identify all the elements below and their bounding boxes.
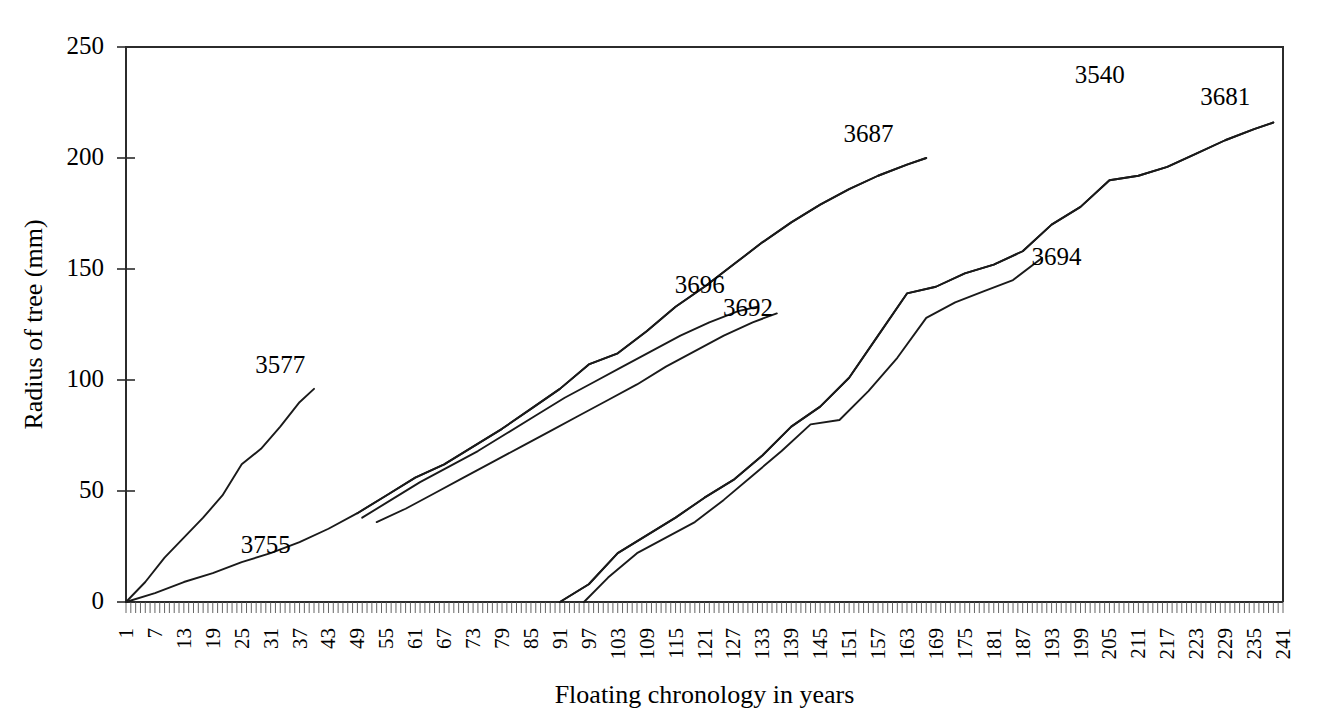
- x-tick-label-181: 181: [982, 628, 1006, 660]
- x-tick-label-187: 187: [1011, 628, 1035, 660]
- x-tick-label-55: 55: [374, 628, 398, 649]
- x-tick-label-19: 19: [201, 628, 225, 649]
- series-label-3696: 3696: [675, 271, 725, 298]
- x-tick-label-group-223: 223: [1184, 628, 1208, 660]
- series-label-3577: 3577: [255, 351, 305, 378]
- x-tick-label-73: 73: [461, 628, 485, 649]
- x-tick-label-85: 85: [519, 628, 543, 649]
- x-tick-label-group-61: 61: [403, 628, 427, 649]
- x-tick-label-91: 91: [548, 628, 572, 649]
- chart-page: 0501001502002501713192531374349556167737…: [0, 0, 1325, 723]
- x-axis-title: Floating chronology in years: [555, 680, 855, 709]
- x-tick-label-group-217: 217: [1155, 628, 1179, 660]
- x-tick-label-group-187: 187: [1011, 628, 1035, 660]
- tree-radius-line-chart: 0501001502002501713192531374349556167737…: [0, 0, 1325, 723]
- x-tick-label-193: 193: [1040, 628, 1064, 660]
- series-label-3540: 3540: [1075, 61, 1125, 88]
- x-tick-label-229: 229: [1213, 628, 1237, 660]
- series-line-3681: [560, 122, 1273, 602]
- x-tick-label-group-79: 79: [490, 628, 514, 649]
- x-tick-label-group-235: 235: [1242, 628, 1266, 660]
- x-tick-label-group-55: 55: [374, 628, 398, 649]
- x-tick-label-group-169: 169: [924, 628, 948, 660]
- series-label-3694: 3694: [1031, 243, 1082, 270]
- x-tick-label-group-157: 157: [866, 628, 890, 660]
- x-tick-label-group-7: 7: [143, 628, 167, 639]
- x-tick-label-139: 139: [779, 628, 803, 660]
- x-tick-label-103: 103: [606, 628, 630, 660]
- x-tick-label-group-145: 145: [808, 628, 832, 660]
- series-label-3692: 3692: [723, 294, 773, 321]
- x-tick-label-group-19: 19: [201, 628, 225, 649]
- series-line-3694: [584, 258, 1042, 602]
- x-tick-label-group-121: 121: [693, 628, 717, 660]
- x-tick-label-223: 223: [1184, 628, 1208, 660]
- x-tick-label-group-1: 1: [114, 628, 138, 639]
- x-tick-label-217: 217: [1155, 628, 1179, 660]
- x-tick-label-175: 175: [953, 628, 977, 660]
- x-tick-label-1: 1: [114, 628, 138, 639]
- x-tick-label-group-181: 181: [982, 628, 1006, 660]
- x-tick-label-group-109: 109: [635, 628, 659, 660]
- x-tick-label-group-67: 67: [432, 628, 456, 649]
- x-tick-label-79: 79: [490, 628, 514, 649]
- x-tick-label-61: 61: [403, 628, 427, 649]
- x-tick-label-115: 115: [664, 628, 688, 659]
- x-tick-label-211: 211: [1126, 628, 1150, 659]
- series-label-3687: 3687: [843, 120, 893, 147]
- x-tick-label-97: 97: [577, 628, 601, 649]
- x-tick-label-13: 13: [172, 628, 196, 649]
- x-tick-label-group-163: 163: [895, 628, 919, 660]
- x-tick-label-group-241: 241: [1271, 628, 1295, 660]
- x-tick-label-127: 127: [721, 628, 745, 660]
- x-tick-label-49: 49: [345, 628, 369, 649]
- y-tick-label-250: 250: [67, 32, 105, 59]
- x-tick-label-group-139: 139: [779, 628, 803, 660]
- x-tick-label-group-151: 151: [837, 628, 861, 660]
- x-tick-label-group-13: 13: [172, 628, 196, 649]
- y-axis-title-group: Radius of tree (mm): [19, 219, 48, 429]
- series-line-3687: [357, 158, 926, 513]
- x-tick-label-157: 157: [866, 628, 890, 660]
- x-tick-label-group-127: 127: [721, 628, 745, 660]
- x-tick-label-199: 199: [1069, 628, 1093, 660]
- x-tick-label-group-85: 85: [519, 628, 543, 649]
- x-tick-label-121: 121: [693, 628, 717, 660]
- x-tick-label-group-31: 31: [259, 628, 283, 649]
- series-label-3681: 3681: [1200, 83, 1250, 110]
- x-tick-label-205: 205: [1097, 628, 1121, 660]
- x-tick-label-group-205: 205: [1097, 628, 1121, 660]
- x-tick-label-31: 31: [259, 628, 283, 649]
- x-tick-label-group-115: 115: [664, 628, 688, 659]
- series-line-3540: [560, 122, 1273, 602]
- x-tick-label-151: 151: [837, 628, 861, 660]
- x-tick-label-group-91: 91: [548, 628, 572, 649]
- y-axis-title: Radius of tree (mm): [19, 219, 48, 429]
- y-tick-label-0: 0: [92, 587, 105, 614]
- x-tick-label-109: 109: [635, 628, 659, 660]
- x-tick-label-group-175: 175: [953, 628, 977, 660]
- x-tick-label-group-49: 49: [345, 628, 369, 649]
- y-tick-label-100: 100: [67, 365, 105, 392]
- x-tick-label-241: 241: [1271, 628, 1295, 660]
- x-tick-label-25: 25: [230, 628, 254, 649]
- x-tick-label-133: 133: [750, 628, 774, 660]
- y-tick-label-150: 150: [67, 254, 105, 281]
- x-tick-label-group-193: 193: [1040, 628, 1064, 660]
- series-line-3696: [362, 307, 757, 518]
- x-tick-label-group-97: 97: [577, 628, 601, 649]
- x-tick-label-235: 235: [1242, 628, 1266, 660]
- x-tick-label-group-211: 211: [1126, 628, 1150, 659]
- x-tick-label-group-229: 229: [1213, 628, 1237, 660]
- x-tick-label-group-43: 43: [316, 628, 340, 649]
- x-tick-label-group-73: 73: [461, 628, 485, 649]
- x-tick-label-145: 145: [808, 628, 832, 660]
- x-tick-label-67: 67: [432, 628, 456, 649]
- x-tick-label-43: 43: [316, 628, 340, 649]
- x-tick-label-37: 37: [288, 628, 312, 649]
- x-tick-label-group-25: 25: [230, 628, 254, 649]
- x-tick-label-group-199: 199: [1069, 628, 1093, 660]
- series-label-3755: 3755: [241, 531, 291, 558]
- y-tick-label-50: 50: [79, 476, 104, 503]
- x-tick-label-169: 169: [924, 628, 948, 660]
